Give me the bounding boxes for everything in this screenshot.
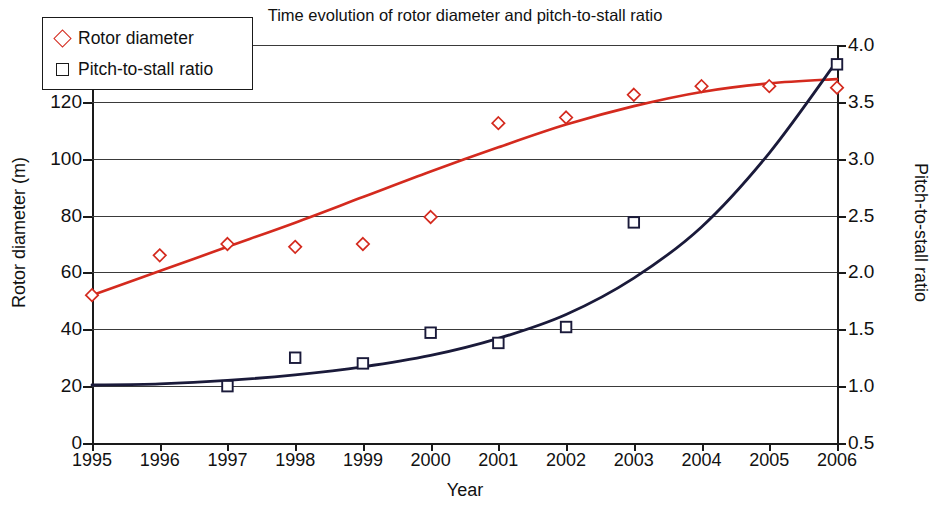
axis-tick (837, 45, 846, 47)
x-axis-title: Year (0, 480, 930, 501)
legend: Rotor diameter Pitch-to-stall ratio (42, 17, 253, 90)
right-axis-tick-label: 4.0 (848, 34, 874, 56)
x-axis-tick-labels: 1995199619971998199920002001200220032004… (92, 450, 837, 476)
x-axis-tick-label: 2003 (614, 450, 654, 471)
left-axis-tick-label: 40 (61, 318, 82, 340)
right-axis-tick-labels: 0.51.01.52.02.53.03.54.0 (848, 45, 908, 443)
plot-area (92, 45, 837, 443)
bottom-axis-line (92, 443, 837, 445)
legend-item-pitch-to-stall-ratio: Pitch-to-stall ratio (56, 58, 252, 80)
right-axis-tick-label: 1.0 (848, 375, 874, 397)
axis-tick (837, 102, 846, 104)
right-axis-tick-label: 2.0 (848, 261, 874, 283)
left-axis-tick-label: 120 (50, 91, 82, 113)
axis-tick (83, 443, 92, 445)
legend-item-label: Rotor diameter (78, 28, 194, 49)
right-axis-title: Pitch-to-stall ratio (910, 68, 930, 398)
x-axis-tick-label: 2002 (546, 450, 586, 471)
right-axis-tick-label: 2.5 (848, 205, 874, 227)
x-axis-tick-label: 1996 (140, 450, 180, 471)
square-marker-icon (56, 63, 69, 76)
axis-tick (837, 329, 846, 331)
left-axis-tick-label: 60 (61, 261, 82, 283)
x-axis-tick-label: 1998 (275, 450, 315, 471)
chart-root: Time evolution of rotor diameter and pit… (0, 0, 930, 515)
x-axis-tick-label: 2005 (749, 450, 789, 471)
right-axis-tick-label: 3.0 (848, 148, 874, 170)
x-axis-tick-label: 1997 (207, 450, 247, 471)
diamond-marker-icon (53, 29, 71, 47)
x-axis-tick-label: 2006 (817, 450, 857, 471)
axis-tick (83, 102, 92, 104)
left-axis-line (92, 45, 94, 443)
gridline (92, 329, 837, 330)
axis-tick (83, 272, 92, 274)
x-axis-tick-label: 2000 (411, 450, 451, 471)
left-axis-tick-label: 100 (50, 148, 82, 170)
right-axis-tick-label: 1.5 (848, 318, 874, 340)
axis-tick (837, 159, 846, 161)
gridline (92, 272, 837, 273)
left-axis-title: Rotor diameter (m) (9, 68, 30, 398)
gridline (92, 386, 837, 387)
left-axis-tick-label: 20 (61, 375, 82, 397)
right-axis-tick-label: 3.5 (848, 91, 874, 113)
gridline (92, 159, 837, 160)
gridline (92, 102, 837, 103)
axis-tick (837, 216, 846, 218)
axis-tick (83, 386, 92, 388)
x-axis-tick-label: 1995 (72, 450, 112, 471)
axis-tick (83, 159, 92, 161)
legend-item-label: Pitch-to-stall ratio (78, 59, 213, 80)
left-axis-tick-label: 80 (61, 205, 82, 227)
x-axis-tick-label: 2004 (682, 450, 722, 471)
axis-tick (837, 386, 846, 388)
x-axis-tick-label: 2001 (478, 450, 518, 471)
x-axis-tick-label: 1999 (343, 450, 383, 471)
legend-item-rotor-diameter: Rotor diameter (56, 27, 252, 49)
gridline (92, 216, 837, 217)
axis-tick (83, 329, 92, 331)
right-axis-line (837, 45, 839, 443)
axis-tick (83, 216, 92, 218)
axis-tick (837, 272, 846, 274)
